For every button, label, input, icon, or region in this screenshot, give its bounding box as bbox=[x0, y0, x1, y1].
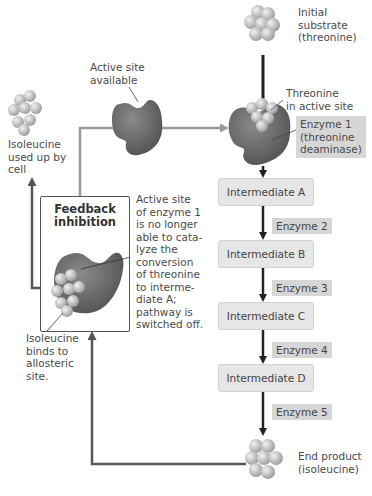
isoleucine-used-up-label: Isoleucine used up by cell bbox=[8, 138, 66, 176]
end-product-label: End product (isoleucine) bbox=[298, 450, 362, 475]
feedback-inhibition-box: Feedback inhibition bbox=[40, 196, 130, 332]
enzyme5-tag: Enzyme 5 bbox=[272, 404, 332, 420]
active-site-available-label: Active site available bbox=[90, 61, 145, 86]
intermediate-b-box: Intermediate B bbox=[218, 240, 314, 268]
active-site-blocked-label: Active site of enzyme 1 is no longer abl… bbox=[136, 193, 203, 331]
enzyme4-tag: Enzyme 4 bbox=[272, 342, 332, 358]
intermediate-d-box: Intermediate D bbox=[218, 364, 314, 392]
feedback-inhibition-diagram: Feedback inhibition Initial substrate (t… bbox=[0, 0, 372, 496]
intermediate-c-box: Intermediate C bbox=[218, 302, 314, 330]
inhibited-enzyme-icon bbox=[41, 197, 129, 331]
isoleucine-binds-label: Isoleucine binds to allosteric site. bbox=[26, 332, 79, 382]
free-enzyme-icon bbox=[112, 100, 162, 155]
enzyme1-label: Enzyme 1 (threonine deaminase) bbox=[296, 116, 366, 158]
enzyme3-tag: Enzyme 3 bbox=[272, 280, 332, 296]
threonine-molecule-icon bbox=[244, 5, 280, 41]
isoleucine-used-molecule-icon bbox=[8, 90, 42, 136]
enzyme2-tag: Enzyme 2 bbox=[272, 218, 332, 234]
isoleucine-end-product-icon bbox=[245, 439, 283, 479]
threonine-in-active-site-label: Threonine in active site bbox=[286, 87, 353, 112]
intermediate-a-box: Intermediate A bbox=[218, 178, 314, 206]
initial-substrate-label: Initial substrate (threonine) bbox=[298, 6, 357, 44]
